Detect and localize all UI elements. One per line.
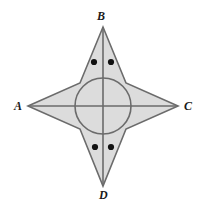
geometry-figure: B A C D: [0, 0, 206, 208]
dot-angle-dbc: [108, 59, 114, 65]
dot-angle-bdc: [108, 144, 114, 150]
vertex-label-b: B: [97, 10, 105, 22]
dot-angle-abd: [91, 59, 97, 65]
vertex-label-d: D: [99, 189, 108, 201]
dot-angle-bda: [92, 144, 98, 150]
geometry-canvas: [0, 0, 206, 208]
vertex-label-c: C: [184, 100, 192, 112]
vertex-label-a: A: [14, 100, 22, 112]
